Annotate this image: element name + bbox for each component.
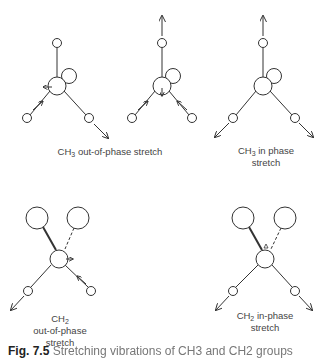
subscript: 3 [71,151,75,158]
ch3-in-phase-molecule [215,16,313,137]
hydrogen-atom [23,114,32,123]
carbon-atom [50,250,68,268]
label-ch3-out-of-phase: CH3 out-of-phase stretch [40,146,180,158]
carbon-atom [254,77,272,95]
ch2-in-phase-molecule [216,207,312,310]
large-atom [26,207,48,229]
mode-name-line2: stretch [252,157,281,168]
hydrogen-atom [229,287,238,296]
hydrogen-atom [188,114,197,123]
large-atom [232,207,254,229]
hydrogen-atom [291,287,300,296]
figure-caption: Fig. 7.5 Stretching vibrations of CH3 an… [8,344,293,358]
hydrogen-atom [24,287,33,296]
mode-name: out-of-phase [33,325,86,336]
group-formula: CH [51,313,65,324]
mode-name: in phase [258,145,294,156]
hydrogen-atom [259,39,268,48]
hydrogen-atom [158,39,167,48]
hydrogen-atom [53,39,62,48]
hydrogen-atom [128,114,137,123]
group-formula: CH [58,146,72,157]
mode-name-line2: stretch [251,322,280,333]
subscript: 2 [250,315,254,322]
carbon-atom [48,77,66,95]
large-atom [274,207,296,229]
subscript: 2 [65,318,69,325]
label-ch2-in-phase: CH2 in-phase stretch [225,310,305,334]
hydrogen-atom [291,114,300,123]
group-formula: CH [238,145,252,156]
label-ch3-in-phase: CH3 in phase stretch [226,145,306,169]
group-formula: CH [237,310,251,321]
hydrogen-atom [85,114,94,123]
figure-caption-text: Stretching vibrations of CH3 and CH2 gro… [53,344,293,358]
mode-name: out-of-phase stretch [78,146,163,157]
large-atom [67,207,89,229]
mode-name: in-phase [257,310,293,321]
hydrogen-atom [87,287,96,296]
figure-number: Fig. 7.5 [8,344,49,358]
carbon-atom [256,250,274,268]
subscript: 3 [252,150,256,157]
ch3-out-of-phase-molecule [23,39,109,139]
ch3-middle-molecule [128,16,197,123]
ch2-out-of-phase-molecule [11,207,96,310]
hydrogen-atom [229,114,238,123]
